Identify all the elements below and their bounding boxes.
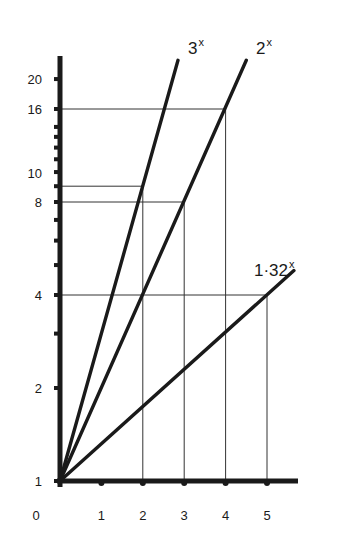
- x-tick-label: 4: [222, 508, 229, 523]
- y-tick-label: 16: [28, 102, 42, 117]
- y-tick-label: 4: [35, 288, 42, 303]
- y-tick: [54, 184, 60, 188]
- curve-3: [60, 60, 178, 481]
- y-tick: [54, 263, 60, 267]
- y-tick-label: 20: [28, 72, 42, 87]
- y-tick: [54, 293, 60, 297]
- x-tick: [223, 480, 229, 486]
- y-tick: [54, 157, 60, 161]
- y-tick: [54, 332, 60, 336]
- x-tick-label: 0: [32, 508, 39, 523]
- y-tick-label: 10: [28, 166, 42, 181]
- x-tick: [264, 480, 270, 486]
- y-tick-label: 1: [35, 474, 42, 489]
- y-tick: [54, 107, 60, 111]
- y-tick: [54, 170, 60, 174]
- y-tick: [54, 479, 60, 483]
- y-tick: [54, 77, 60, 81]
- guide-lines: [60, 109, 267, 481]
- y-tick: [54, 146, 60, 150]
- x-tick-label: 3: [181, 508, 188, 523]
- y-tick: [54, 135, 60, 139]
- y-tick-label: 2: [35, 381, 42, 396]
- y-tick: [54, 386, 60, 390]
- x-tick-label: 2: [139, 508, 146, 523]
- exponential-growth-chart: 12481016200123453x2x1·32x: [0, 0, 345, 542]
- x-tick: [98, 480, 104, 486]
- y-tick: [54, 125, 60, 129]
- x-tick: [140, 480, 146, 486]
- x-tick-label: 5: [263, 508, 270, 523]
- x-tick-label: 1: [98, 508, 105, 523]
- y-tick-label: 8: [35, 195, 42, 210]
- curve-label-3: 3x: [188, 36, 204, 58]
- y-tick: [54, 239, 60, 243]
- curve-1.32: [60, 271, 294, 481]
- curve-label-2: 2x: [256, 36, 272, 58]
- curve-2: [60, 60, 246, 481]
- y-tick: [54, 218, 60, 222]
- x-tick: [181, 480, 187, 486]
- y-tick: [54, 200, 60, 204]
